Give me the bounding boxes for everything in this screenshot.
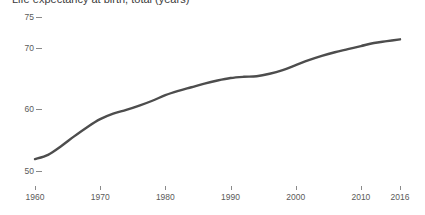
plot-area: 50607075 1960197019801990200020102016 [0, 0, 425, 215]
chart-container: Life expectancy at birth, total (years) … [0, 0, 425, 215]
data-line-path [35, 39, 400, 159]
line-series-life-expectancy [0, 0, 425, 215]
